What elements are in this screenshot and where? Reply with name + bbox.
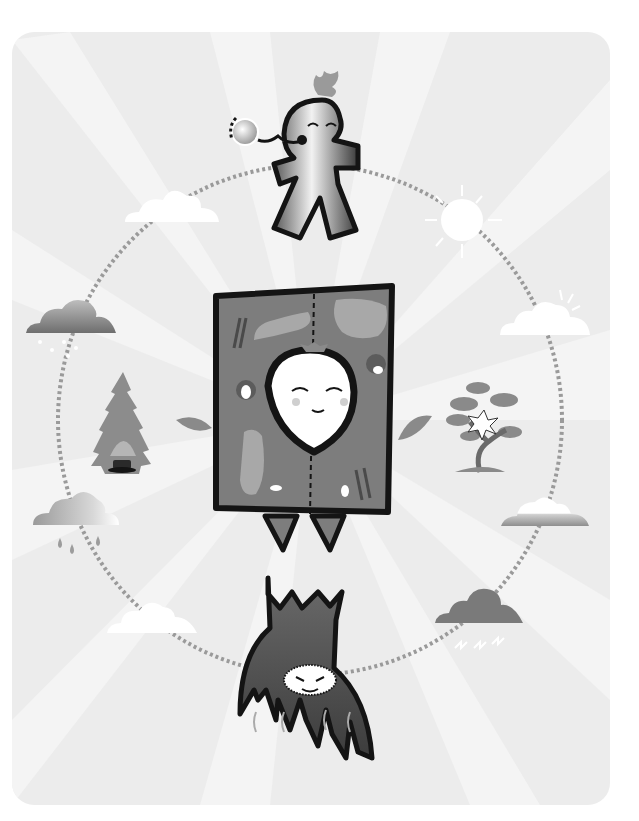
glowing-orb-icon bbox=[232, 119, 258, 145]
pine-tree-icon bbox=[91, 372, 151, 474]
plant-cycle-illustration bbox=[0, 0, 639, 821]
cloud-rainbow-icon bbox=[501, 497, 589, 526]
cloud-sunny-icon bbox=[500, 290, 590, 335]
sprout-leaf-icon bbox=[313, 71, 338, 97]
left-leaf-icon bbox=[176, 417, 212, 430]
